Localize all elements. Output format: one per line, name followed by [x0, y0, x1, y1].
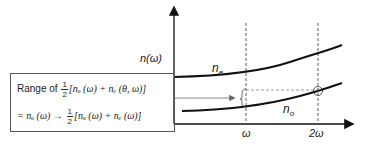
y-axis-label: n(ω) — [140, 52, 162, 64]
range-brace — [240, 89, 246, 107]
ne-label: ne — [212, 61, 224, 77]
x-tick-two-omega: 2ω — [308, 127, 324, 139]
no-label: no — [283, 102, 295, 118]
no-curve — [182, 83, 342, 111]
formula-line-1: Range of 12[nₒ (ω) + nₑ (θ, ω)] — [17, 80, 146, 99]
ne-curve — [174, 45, 342, 77]
formula-line-2: = nₒ (ω) → 12[nₒ (ω) + nₑ (ω)] — [17, 107, 142, 126]
fraction-half: 12 — [67, 107, 73, 126]
fraction-half: 12 — [61, 80, 67, 99]
range-formula-box: Range of 12[nₒ (ω) + nₑ (θ, ω)] = nₒ (ω)… — [10, 73, 175, 132]
x-tick-omega: ω — [242, 127, 251, 139]
